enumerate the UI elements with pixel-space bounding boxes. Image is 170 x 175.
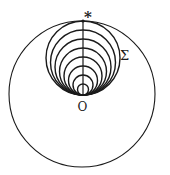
diagram-canvas: * Σ O	[0, 0, 170, 175]
sigma-label: Σ	[120, 48, 129, 63]
outer-circle	[9, 21, 155, 167]
origin-label: O	[78, 100, 88, 114]
star-label: *	[84, 8, 92, 26]
